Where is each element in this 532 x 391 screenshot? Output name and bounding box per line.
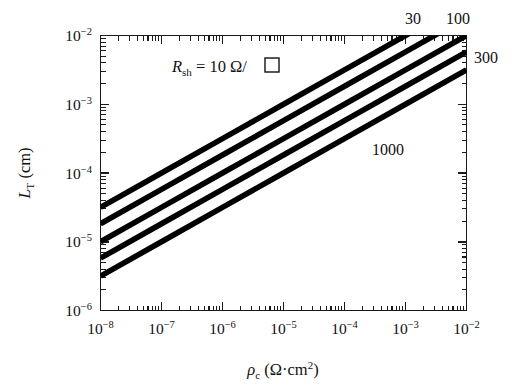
x-axis-title-units: (Ω·cm (264, 360, 308, 379)
annotation-value: = 10 Ω/ (196, 57, 247, 76)
curve-label-30: 30 (405, 10, 421, 27)
y-axis-title-units: (cm) (15, 147, 34, 178)
annotation-subscript: sh (182, 66, 192, 78)
x-axis-title-units-close: ) (313, 360, 319, 379)
chart-figure: 10−810−710−610−510−410−310−2 10−210−310−… (0, 0, 532, 391)
curve-label-100: 100 (446, 10, 470, 27)
x-axis-title-symbol: ρ (246, 360, 255, 379)
y-axis-title-symbol: L (15, 189, 34, 199)
svg-text:LT (cm): LT (cm) (15, 147, 36, 199)
chart-svg: 10−810−710−610−510−410−310−2 10−210−310−… (0, 0, 532, 391)
annotation-symbol: R (171, 57, 182, 76)
curve-label-300: 300 (474, 49, 498, 66)
y-axis-title: LT (cm) (15, 147, 36, 199)
curve-label-1000: 1000 (372, 141, 404, 158)
